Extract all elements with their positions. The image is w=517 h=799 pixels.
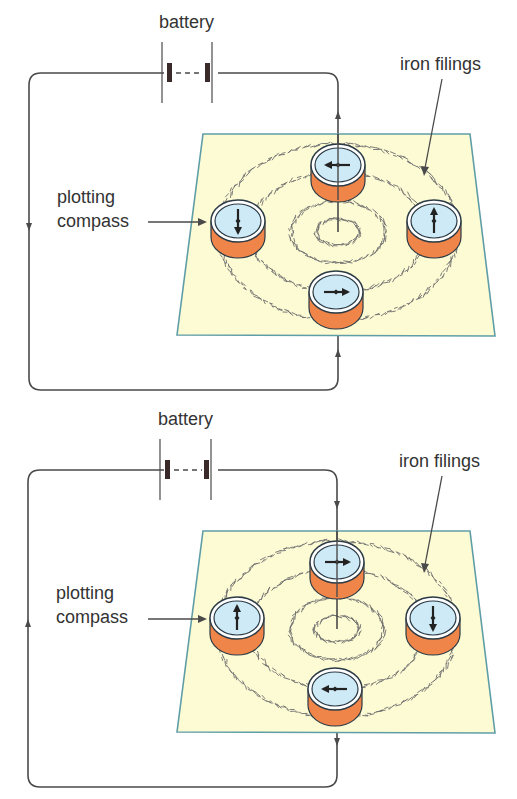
battery-icon bbox=[160, 439, 211, 500]
plotting-compass-bottom bbox=[308, 668, 362, 726]
circuit-diagram-top bbox=[26, 42, 495, 390]
plotting-compass-right bbox=[406, 597, 460, 655]
diagram-stage: battery iron filings plotting compass ba… bbox=[0, 0, 517, 799]
plotting-compass-left bbox=[211, 200, 265, 258]
battery-icon bbox=[162, 42, 212, 103]
circuit-diagrams bbox=[0, 0, 517, 799]
plotting-compass-left bbox=[210, 597, 264, 655]
plotting-compass-right bbox=[407, 200, 461, 258]
circuit-diagram-bottom bbox=[25, 439, 495, 787]
plotting-compass-bottom bbox=[309, 271, 363, 329]
